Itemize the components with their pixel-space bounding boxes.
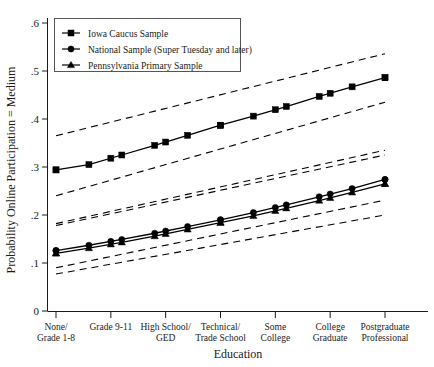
y-tick-label: .2	[31, 209, 39, 221]
y-tick-label: .5	[31, 65, 40, 77]
data-point-marker	[108, 155, 114, 161]
x-category-label: Professional	[362, 333, 409, 343]
x-category-label: College	[315, 322, 345, 332]
data-point-marker	[185, 132, 191, 138]
data-point-marker	[119, 152, 125, 158]
x-category-label: None/	[44, 322, 68, 332]
data-point-marker	[53, 167, 59, 173]
y-tick-label: .6	[31, 17, 40, 29]
confidence-band-line	[56, 155, 385, 226]
confidence-band-line	[56, 150, 385, 223]
chart-legend: Iowa Caucus SampleNational Sample (Super…	[55, 19, 252, 72]
y-axis-title: Probability Online Participation = Mediu…	[4, 66, 18, 273]
legend-item-1: National Sample (Super Tuesday and later…	[62, 45, 252, 56]
data-point-marker	[283, 104, 289, 110]
legend-label: Iowa Caucus Sample	[88, 29, 168, 39]
confidence-band-line	[56, 102, 385, 196]
y-tick-label: .4	[31, 113, 40, 125]
data-point-marker	[316, 93, 322, 99]
x-category-label-group: None/Grade 1-8Grade 9-11High School/GEDT…	[37, 322, 410, 343]
y-tick-label: .3	[31, 161, 40, 173]
data-point-marker	[68, 46, 74, 52]
confidence-band-line	[56, 200, 385, 268]
x-tick-group	[56, 312, 385, 319]
legend-label: National Sample (Super Tuesday and later…	[88, 45, 252, 56]
data-point-marker	[382, 75, 388, 81]
data-point-marker	[163, 139, 169, 145]
x-category-label: Technical/	[201, 322, 241, 332]
confidence-band-group	[56, 54, 385, 274]
x-category-label: GED	[156, 333, 176, 343]
x-category-label: High School/	[140, 322, 191, 332]
y-tick-label: .1	[31, 257, 39, 269]
x-category-label: Postgraduate	[360, 322, 409, 332]
x-axis-title: Education	[214, 347, 263, 361]
data-point-marker	[250, 113, 256, 119]
data-point-marker	[327, 90, 333, 96]
data-point-marker	[218, 122, 224, 128]
x-category-label: Grade 1-8	[37, 333, 75, 343]
data-point-marker	[272, 107, 278, 113]
data-point-marker	[349, 84, 355, 90]
y-tick-group: 0.1.2.3.4.5.6	[31, 17, 48, 317]
x-category-label: College	[261, 333, 291, 343]
chart-svg: Probability Online Participation = Mediu…	[0, 0, 434, 367]
data-point-marker	[68, 30, 74, 36]
chart-figure: Probability Online Participation = Mediu…	[0, 0, 434, 367]
data-point-marker	[152, 142, 158, 148]
legend-label: Pennsylvania Primary Sample	[88, 61, 203, 71]
y-tick-label: 0	[34, 305, 40, 317]
data-point-marker	[86, 162, 92, 168]
x-category-label: Trade School	[195, 333, 246, 343]
x-category-label: Some	[265, 322, 287, 332]
x-category-label: Graduate	[313, 333, 348, 343]
x-category-label: Grade 9-11	[90, 322, 133, 332]
